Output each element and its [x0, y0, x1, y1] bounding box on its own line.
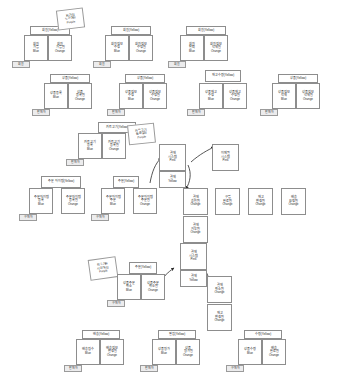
group-header-label: 주문 아이템(Yellow): [48, 180, 74, 184]
actor-label: 판매자: [265, 111, 274, 114]
actor-chip[interactable]: 판매자: [64, 365, 82, 372]
actor-label: 회원: [174, 63, 180, 66]
policy-color: Purple: [137, 135, 146, 139]
actor-chip[interactable]: 구매자: [226, 365, 244, 372]
event-card[interactable]: 재고 변경됨 Orange: [207, 304, 232, 331]
event-storming-board: 회원(Yellow) 회원 가입 Blue 회원 가입됨 Orange 회원 회…: [0, 0, 344, 373]
event-card[interactable]: 상품재고 수정됨 Orange: [223, 83, 247, 109]
event-color: Orange: [222, 203, 232, 207]
command-color: Blue: [38, 203, 44, 207]
event-card[interactable]: 주문아이템 등록됨 Orange: [61, 188, 85, 214]
group-header-label: 주문(Yellow): [118, 180, 135, 184]
group-header: 주문(Yellow): [113, 176, 139, 188]
command-color: Blue: [114, 50, 120, 54]
external-system-card[interactable]: 결제 시스템 Pink: [159, 144, 186, 171]
external-system-card[interactable]: 이메일 시스템 Pink: [212, 144, 239, 171]
actor-chip[interactable]: 구매자: [19, 214, 37, 221]
event-card[interactable]: 배송 완료됨 Orange: [262, 339, 286, 365]
command-card[interactable]: 상품재고 수정 Blue: [199, 83, 223, 109]
event-card[interactable]: 상품 등록됨 Orange: [68, 83, 92, 109]
aggregate-card[interactable]: 결제 Yellow: [180, 270, 207, 287]
actor-label: 구매자: [231, 367, 240, 370]
event-color: Orange: [255, 203, 265, 207]
group-header-label: 상품(Yellow): [290, 77, 307, 81]
command-card[interactable]: 상품주문 취소 Blue: [117, 274, 141, 300]
edge-paysystem-to-mailsystem: [191, 147, 214, 162]
group-header-label: 배송(Yellow): [93, 333, 110, 337]
command-card[interactable]: 회원 탈퇴 Blue: [180, 35, 204, 61]
actor-chip[interactable]: 판매자: [140, 365, 158, 372]
group-header-label: 상품(Yellow): [62, 77, 79, 81]
actor-label: 구매자: [24, 216, 33, 219]
actor-label: 판매자: [145, 367, 154, 370]
event-color: Orange: [214, 319, 224, 323]
event-card[interactable]: 결제 거부됨 Orange: [183, 216, 208, 243]
command-card[interactable]: 상품평가 Blue: [152, 339, 176, 365]
event-card[interactable]: 회원 가입됨 Orange: [48, 35, 72, 61]
group-header-label: 회원(Yellow): [198, 29, 215, 33]
group-header: 상품(Yellow): [125, 74, 165, 83]
command-card[interactable]: 배송접수 Blue: [76, 339, 100, 365]
event-card[interactable]: 결제 승인됨 Orange: [183, 188, 208, 215]
event-card[interactable]: 주문아이템 주문됨 Orange: [133, 188, 157, 214]
group-header: 별점(Yellow): [158, 330, 196, 339]
actor-chip[interactable]: 판매자: [32, 109, 50, 116]
actor-label: 회원: [99, 63, 105, 66]
policy-note[interactable]: 카트고기 등록할인 Purple: [127, 123, 156, 146]
actor-label: 판매자: [71, 161, 80, 164]
command-card[interactable]: 상품수령 Blue: [238, 339, 262, 365]
event-card[interactable]: 상품주문 취소됨 Orange: [141, 274, 165, 300]
actor-chip[interactable]: 판매자: [260, 109, 278, 116]
command-color: Blue: [33, 50, 39, 54]
event-card[interactable]: 재고 변경됨 Orange: [248, 188, 273, 215]
group-header: 상품(Yellow): [50, 74, 90, 83]
command-card[interactable]: 주문아이템 주문 Blue: [101, 188, 125, 214]
command-card[interactable]: 상품정보 삭제 Blue: [272, 83, 296, 109]
event-card[interactable]: 카트고기 등록됨 Orange: [102, 133, 126, 159]
policy-note[interactable]: 회가입 도건확인 Purple: [56, 7, 85, 30]
event-color: Orange: [303, 98, 313, 102]
policy-note[interactable]: 취소기한 시원확인 Purple: [88, 256, 119, 281]
event-card[interactable]: 구입 완료됨 Orange: [215, 188, 240, 215]
command-color: Blue: [161, 352, 167, 356]
event-color: Orange: [269, 354, 279, 358]
actor-chip[interactable]: 판매자: [107, 109, 125, 116]
group-header-label: 수령(Yellow): [255, 333, 272, 337]
external-system-card[interactable]: 결제 시스템 Pink: [180, 243, 207, 270]
command-card[interactable]: 상품등록 Blue: [44, 83, 68, 109]
group-header-label: 상품(Yellow): [137, 77, 154, 81]
actor-chip[interactable]: 회원: [93, 61, 111, 68]
command-card[interactable]: 회원정보 수정 Blue: [105, 35, 129, 61]
group-header: 수령(Yellow): [244, 330, 282, 339]
actor-chip[interactable]: 판매자: [187, 109, 205, 116]
command-card[interactable]: 카트고기 등록 Blue: [78, 133, 102, 159]
command-color: Blue: [128, 98, 134, 102]
event-color: Orange: [288, 203, 298, 207]
event-card[interactable]: 상품 평가됨 Orange: [176, 339, 200, 365]
event-card[interactable]: 배송정보 변경됨 Orange: [100, 339, 124, 365]
aggregate-card[interactable]: 결제 Yellow: [159, 171, 186, 188]
actor-chip[interactable]: 회원: [168, 61, 186, 68]
actor-chip[interactable]: 판매자: [66, 159, 84, 166]
event-card[interactable]: 배송 요청됨 Orange: [281, 188, 306, 215]
aggregate-color: Yellow: [168, 180, 177, 184]
event-color: Orange: [183, 354, 193, 358]
event-color: Orange: [148, 289, 158, 293]
group-header: 주문(Yellow): [129, 262, 157, 274]
command-card[interactable]: 회원 가입 Blue: [24, 35, 48, 61]
event-card[interactable]: 상품정보 삭제됨 Orange: [296, 83, 320, 109]
actor-chip[interactable]: 구매자: [107, 300, 125, 307]
actor-label: 회원: [18, 63, 24, 66]
event-card[interactable]: 회원정보 수정됨 Orange: [129, 35, 153, 61]
command-card[interactable]: 상품정보 수정 Blue: [119, 83, 143, 109]
actor-chip[interactable]: 회원: [12, 61, 30, 68]
group-header-label: 카트고기(Yellow): [106, 126, 129, 130]
policy-color: Purple: [99, 270, 108, 275]
actor-chip[interactable]: 구매자: [91, 214, 109, 221]
event-card[interactable]: 회원정보 삭제됨 Orange: [204, 35, 228, 61]
event-card[interactable]: 상품정보 수정됨 Orange: [143, 83, 167, 109]
event-card[interactable]: 결제 취소됨 Orange: [207, 276, 232, 303]
command-card[interactable]: 주문아이템 등록 Blue: [29, 188, 53, 214]
command-color: Blue: [281, 98, 287, 102]
event-color: Orange: [55, 50, 65, 54]
